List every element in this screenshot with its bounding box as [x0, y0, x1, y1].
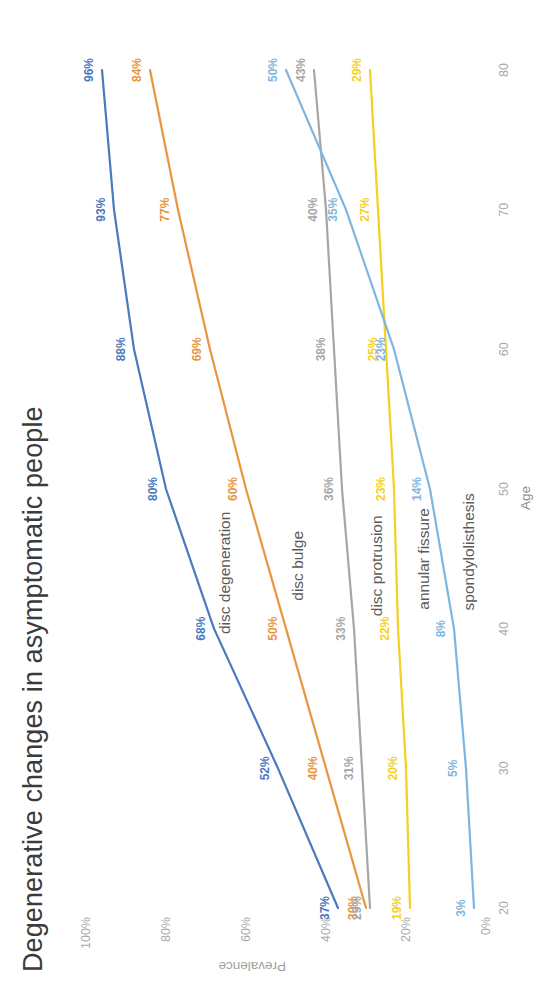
rotated-figure-wrapper: Degenerative changes in asymptomatic peo… [0, 0, 556, 996]
data-point-label: 60% [226, 477, 240, 501]
series-label-disc-bulge: disc bulge [289, 531, 307, 601]
data-point-label: 93% [94, 198, 108, 222]
data-point-label: 27% [358, 198, 372, 222]
data-point-label: 8% [434, 620, 448, 637]
data-point-label: 23% [374, 477, 388, 501]
y-tick-label: 60% [239, 917, 253, 942]
series-label-disc-protrusion: disc protrusion [368, 515, 386, 616]
data-point-label: 38% [314, 337, 328, 361]
data-point-label: 5% [446, 760, 460, 777]
series-label-annular-fissure: annular fissure [415, 508, 433, 610]
data-point-label: 80% [146, 477, 160, 501]
series-label-disc-degeneration: disc degeneration [216, 512, 234, 634]
data-point-label: 35% [326, 198, 340, 222]
data-point-label: 33% [334, 617, 348, 641]
y-tick-label: 100% [79, 917, 93, 949]
data-point-label: 84% [130, 58, 144, 82]
x-tick-label: 30 [497, 761, 511, 775]
x-tick-label: 20 [497, 901, 511, 915]
data-point-label: 31% [342, 756, 356, 780]
data-point-label: 40% [306, 198, 320, 222]
data-point-label: 37% [318, 896, 332, 920]
data-point-label: 88% [114, 337, 128, 361]
data-point-label: 14% [410, 477, 424, 501]
y-tick-label: 40% [319, 917, 333, 942]
data-point-label: 69% [190, 337, 204, 361]
data-point-label: 77% [158, 198, 172, 222]
x-tick-label: 80 [497, 63, 511, 77]
y-tick-label: 80% [159, 917, 173, 942]
data-point-label: 52% [258, 756, 272, 780]
series-label-spondylolisthesis: spondylolisthesis [460, 493, 478, 610]
x-axis-label: Age [518, 0, 533, 996]
data-point-label: 22% [378, 617, 392, 641]
data-point-label: 50% [266, 58, 280, 82]
data-point-label: 50% [266, 617, 280, 641]
y-axis-label: Prevalence [218, 959, 286, 974]
data-point-label: 29% [350, 896, 364, 920]
data-point-label: 19% [390, 896, 404, 920]
page-title: Degenerative changes in asymptomatic peo… [18, 406, 49, 972]
data-point-label: 68% [194, 617, 208, 641]
y-tick-label: 0% [479, 917, 493, 935]
data-point-label: 40% [306, 756, 320, 780]
data-point-label: 3% [454, 899, 468, 916]
data-point-label: 96% [82, 58, 96, 82]
x-tick-label: 50 [497, 482, 511, 496]
x-tick-label: 70 [497, 203, 511, 217]
series-line-disc-degeneration [102, 70, 338, 908]
data-point-label: 20% [386, 756, 400, 780]
y-tick-label: 20% [399, 917, 413, 942]
x-tick-label: 60 [497, 342, 511, 356]
data-point-label: 43% [294, 58, 308, 82]
x-tick-label: 40 [497, 622, 511, 636]
data-point-label: 36% [322, 477, 336, 501]
chart-figure: Degenerative changes in asymptomatic peo… [0, 0, 556, 996]
plot-area: 0%20%40%60%80%100% 20304050607080 37%52%… [86, 70, 486, 908]
data-point-label: 23% [374, 337, 388, 361]
data-point-label: 29% [350, 58, 364, 82]
